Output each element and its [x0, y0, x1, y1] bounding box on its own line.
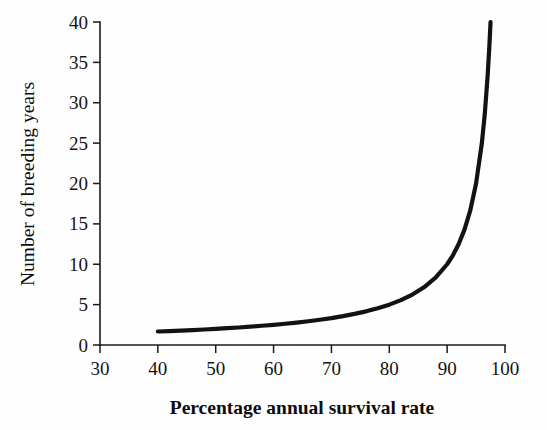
line-chart: 0510152025303540 30405060708090100 Perce… [0, 0, 547, 430]
y-tick-label: 35 [69, 52, 88, 73]
y-tick-label: 10 [69, 254, 88, 275]
x-tick-label: 60 [264, 358, 283, 379]
x-axis-title: Percentage annual survival rate [170, 397, 435, 418]
x-tick-label: 40 [148, 358, 167, 379]
x-tick-label: 30 [91, 358, 110, 379]
y-axis-title: Number of breeding years [17, 82, 38, 286]
x-tick-label: 80 [380, 358, 399, 379]
y-tick-label: 0 [79, 335, 89, 356]
y-tick-label: 40 [69, 12, 88, 33]
x-tick-label: 90 [438, 358, 457, 379]
chart-figure: 0510152025303540 30405060708090100 Perce… [0, 0, 547, 430]
y-tick-label: 20 [69, 173, 88, 194]
y-tick-label: 25 [69, 133, 88, 154]
x-tick-label: 70 [322, 358, 341, 379]
x-tick-label: 50 [206, 358, 225, 379]
y-tick-label: 30 [69, 92, 88, 113]
x-tick-label: 100 [491, 358, 520, 379]
y-tick-label: 5 [79, 294, 89, 315]
y-tick-label: 15 [69, 213, 88, 234]
